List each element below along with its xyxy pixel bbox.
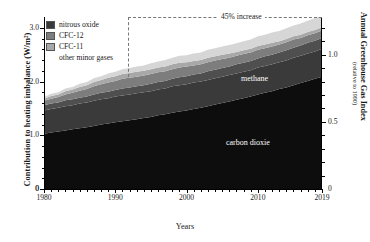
- x-minor-tick: [151, 189, 152, 192]
- y-minor-tick-left: [42, 82, 45, 83]
- y-tick-left: [40, 135, 44, 136]
- y-minor-tick-right: [322, 41, 325, 42]
- x-minor-tick: [301, 189, 302, 192]
- y-tick-right: [322, 122, 326, 123]
- y-minor-tick-right: [322, 82, 325, 83]
- x-minor-tick: [194, 189, 195, 192]
- x-minor-tick: [201, 189, 202, 192]
- x-minor-tick: [272, 189, 273, 192]
- x-minor-tick: [244, 189, 245, 192]
- y-minor-tick-left: [42, 125, 45, 126]
- x-minor-tick: [172, 189, 173, 192]
- x-minor-tick: [165, 189, 166, 192]
- y-tick-left: [40, 28, 44, 29]
- legend-swatch-icon: [46, 32, 55, 40]
- x-minor-tick: [137, 189, 138, 192]
- x-minor-tick: [94, 189, 95, 192]
- x-minor-tick: [229, 189, 230, 192]
- x-minor-tick: [179, 189, 180, 192]
- x-minor-tick: [58, 189, 59, 192]
- y-tick-label-zero: 0: [328, 185, 354, 193]
- y-minor-tick-left: [42, 49, 45, 50]
- legend-item-cfc-11: CFC-11: [46, 41, 113, 52]
- x-minor-tick: [308, 189, 309, 192]
- y-axis-left-title: Contribution to heating imbalance (W/m²): [23, 20, 32, 200]
- y-minor-tick-left: [42, 39, 45, 40]
- chart-legend: nitrous oxideCFC-12CFC-11other minor gas…: [46, 19, 113, 63]
- percent-increase-annotation: 45% increase: [218, 12, 265, 21]
- y-tick-label-left: 2.0: [0, 78, 39, 86]
- band-label-methane: methane: [241, 74, 268, 83]
- y-minor-tick-right: [322, 135, 325, 136]
- x-tick-label: 2019: [302, 194, 342, 202]
- y-axis-left-line: [44, 17, 45, 189]
- x-minor-tick: [108, 189, 109, 192]
- x-minor-tick: [265, 189, 266, 192]
- y-minor-tick-right: [322, 149, 325, 150]
- y-minor-tick-left: [42, 178, 45, 179]
- y-minor-tick-left: [42, 114, 45, 115]
- increase-callout-box: [128, 17, 322, 77]
- legend-label: CFC-12: [59, 32, 83, 40]
- x-tick-label: 2000: [167, 194, 207, 202]
- x-tick-label: 1990: [95, 194, 135, 202]
- band-label-carbon-dioxide: carbon dioxie: [226, 138, 270, 147]
- x-minor-tick: [236, 189, 237, 192]
- y-tick-label-zero: 0: [0, 185, 39, 193]
- y-tick-label-right: 1.0: [328, 51, 354, 59]
- y-minor-tick-right: [322, 68, 325, 69]
- legend-item-cfc-12: CFC-12: [46, 30, 113, 41]
- y-minor-tick-right: [322, 95, 325, 96]
- y-tick-label-left: 1.0: [0, 131, 39, 139]
- y-minor-tick-left: [42, 92, 45, 93]
- y-minor-tick-right: [322, 28, 325, 29]
- x-minor-tick: [158, 189, 159, 192]
- legend-label: CFC-11: [59, 43, 83, 51]
- y-tick-right: [322, 55, 326, 56]
- legend-swatch-icon: [46, 21, 55, 29]
- x-minor-tick: [73, 189, 74, 192]
- x-minor-tick: [315, 189, 316, 192]
- x-tick-label: 1980: [24, 194, 64, 202]
- legend-label: other minor gases: [59, 54, 113, 62]
- y-minor-tick-left: [42, 71, 45, 72]
- x-minor-tick: [101, 189, 102, 192]
- legend-label: nitrous oxide: [59, 21, 99, 29]
- x-minor-tick: [215, 189, 216, 192]
- x-axis-title: Years: [0, 222, 370, 231]
- x-minor-tick: [279, 189, 280, 192]
- y-minor-tick-left: [42, 146, 45, 147]
- y-minor-tick-left: [42, 168, 45, 169]
- y-tick-label-right: 0.5: [328, 118, 354, 126]
- y-minor-tick-right: [322, 108, 325, 109]
- x-minor-tick: [130, 189, 131, 192]
- x-minor-tick: [222, 189, 223, 192]
- legend-swatch-icon: [46, 43, 55, 51]
- x-minor-tick: [293, 189, 294, 192]
- legend-item-nitrous-oxide: nitrous oxide: [46, 19, 113, 30]
- y-tick-label-left: 3.0: [0, 24, 39, 32]
- x-minor-tick: [251, 189, 252, 192]
- x-minor-tick: [51, 189, 52, 192]
- y-minor-tick-right: [322, 162, 325, 163]
- y-minor-tick-left: [42, 60, 45, 61]
- x-minor-tick: [87, 189, 88, 192]
- x-tick-label: 2010: [238, 194, 278, 202]
- x-minor-tick: [122, 189, 123, 192]
- legend-item-other-minor-gases: other minor gases: [46, 52, 113, 63]
- x-minor-tick: [208, 189, 209, 192]
- x-minor-tick: [65, 189, 66, 192]
- y-minor-tick-left: [42, 157, 45, 158]
- x-minor-tick: [144, 189, 145, 192]
- y-minor-tick-right: [322, 176, 325, 177]
- x-minor-tick: [80, 189, 81, 192]
- y-minor-tick-left: [42, 103, 45, 104]
- x-axis-line: [44, 189, 322, 190]
- x-minor-tick: [286, 189, 287, 192]
- greenhouse-gas-chart: Contribution to heating imbalance (W/m²)…: [0, 0, 370, 242]
- y-axis-right-title: Annual Greenhouse Gas Index: [359, 0, 368, 142]
